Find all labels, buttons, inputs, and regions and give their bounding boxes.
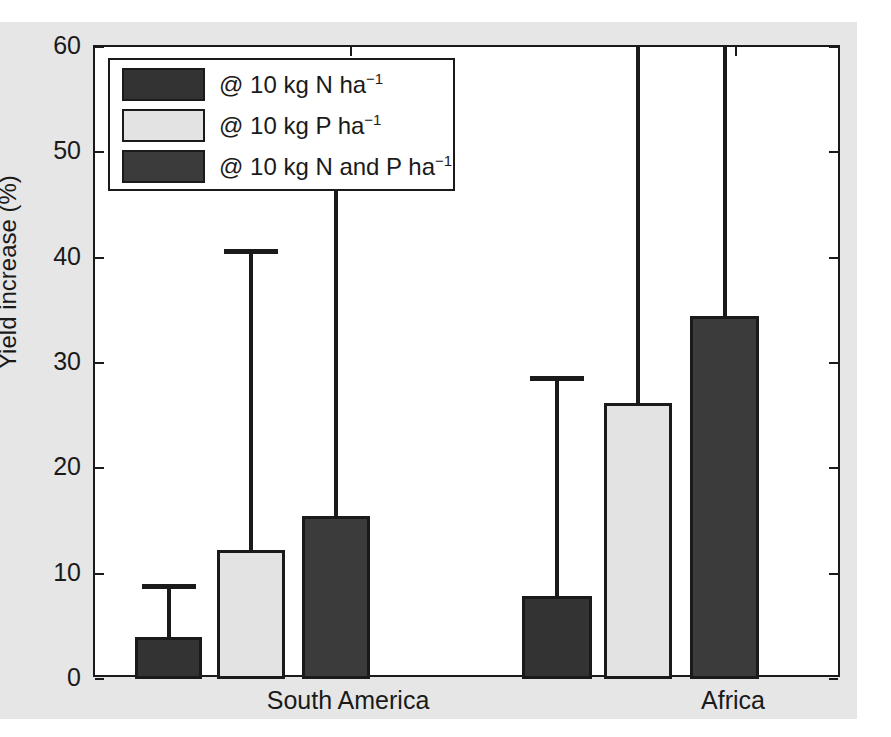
legend-label-p: @ 10 kg P ha−1 xyxy=(219,111,381,140)
y-tick-0 xyxy=(95,678,104,680)
y-tick-label-20: 20 xyxy=(53,452,81,481)
x-tick xyxy=(735,47,737,56)
y-tick-label-60: 60 xyxy=(53,31,81,60)
legend: @ 10 kg N ha−1 @ 10 kg P ha−1 @ 10 kg N … xyxy=(108,58,455,191)
y-tick-10 xyxy=(829,573,838,575)
y-tick-40 xyxy=(829,257,838,259)
page-margin-top xyxy=(0,0,891,22)
y-tick-30 xyxy=(95,362,104,364)
page-margin-right xyxy=(857,0,891,737)
error-bar-cap xyxy=(224,249,278,254)
error-bar-cap xyxy=(530,376,584,381)
x-axis-category-south-america: South America xyxy=(267,686,430,715)
error-bar-stem xyxy=(636,45,640,403)
legend-item-np: @ 10 kg N and P ha−1 xyxy=(122,148,452,184)
error-bar-stem xyxy=(723,45,727,316)
legend-item-p: @ 10 kg P ha−1 xyxy=(122,107,381,143)
error-bar-stem xyxy=(334,184,338,516)
y-tick-50 xyxy=(95,151,104,153)
y-tick-20 xyxy=(95,467,104,469)
y-tick-20 xyxy=(829,467,838,469)
error-bar-cap xyxy=(142,584,196,589)
bar xyxy=(690,316,759,679)
y-tick-label-40: 40 xyxy=(53,241,81,270)
legend-swatch-np xyxy=(122,150,205,183)
y-tick-40 xyxy=(95,257,104,259)
bar xyxy=(217,550,285,679)
y-tick-60 xyxy=(829,46,838,48)
legend-swatch-p xyxy=(122,109,205,142)
legend-swatch-n xyxy=(122,68,205,101)
bar xyxy=(302,516,370,679)
y-tick-label-0: 0 xyxy=(67,663,81,692)
y-tick-10 xyxy=(95,573,104,575)
x-axis-category-africa: Africa xyxy=(701,686,765,715)
error-bar-stem xyxy=(167,584,171,637)
y-axis-title: Yield increase (%) xyxy=(0,175,22,369)
legend-item-n: @ 10 kg N ha−1 xyxy=(122,66,383,102)
error-bar-stem xyxy=(555,376,559,596)
y-tick-30 xyxy=(829,362,838,364)
y-tick-60 xyxy=(95,46,104,48)
error-bar-stem xyxy=(249,249,253,550)
legend-label-np: @ 10 kg N and P ha−1 xyxy=(219,152,452,181)
page-margin-bottom xyxy=(0,719,891,737)
x-tick xyxy=(350,47,352,56)
bar xyxy=(135,637,202,679)
y-tick-label-50: 50 xyxy=(53,136,81,165)
y-tick-0 xyxy=(829,678,838,680)
bar xyxy=(522,596,592,679)
bar xyxy=(604,403,672,679)
legend-label-n: @ 10 kg N ha−1 xyxy=(219,70,383,99)
y-tick-50 xyxy=(829,151,838,153)
y-tick-label-10: 10 xyxy=(53,557,81,586)
y-tick-label-30: 30 xyxy=(53,347,81,376)
